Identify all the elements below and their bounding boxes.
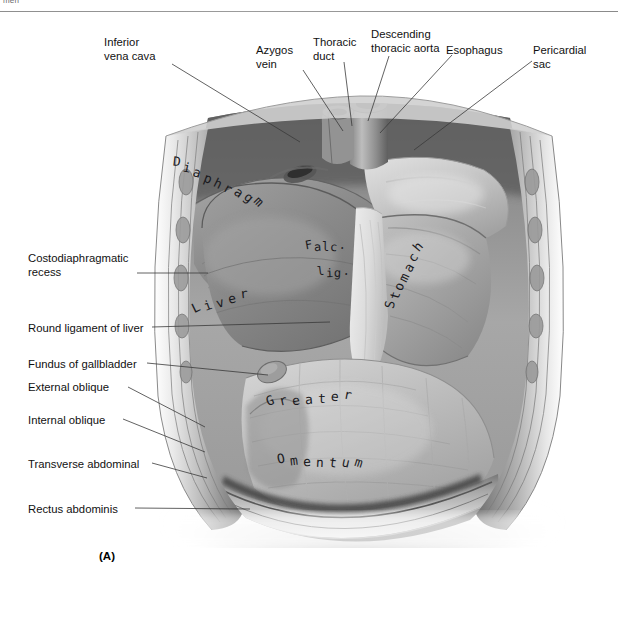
- art-label-glyph: .: [342, 264, 351, 279]
- figure-part-label: (A): [99, 550, 115, 562]
- header-rule: [0, 11, 618, 12]
- art-label-glyph: e: [303, 454, 311, 469]
- callout-external-oblique: External oblique: [28, 381, 109, 395]
- callout-rectus-abdominis: Rectus abdominis: [28, 503, 118, 517]
- art-label-glyph: n: [316, 455, 325, 470]
- page-canvas: men: [0, 0, 618, 618]
- callout-round-ligament-of-liver: Round ligament of liver: [28, 322, 144, 336]
- art-label-glyph: e: [330, 389, 339, 405]
- callout-descending-thoracic-aorta: Descending thoracic aorta: [371, 28, 439, 55]
- art-label-glyph: i: [325, 266, 333, 280]
- art-label-glyph: a: [304, 392, 313, 408]
- callout-internal-oblique: Internal oblique: [28, 414, 105, 428]
- callout-transverse-abdominal: Transverse abdominal: [28, 458, 139, 472]
- art-label-glyph: l: [322, 240, 329, 254]
- art-label-glyph: a: [313, 239, 321, 254]
- art-label-glyph: m: [289, 452, 299, 468]
- callout-pericardial-sac: Pericardial sac: [533, 44, 586, 71]
- callout-thoracic-duct: Thoracic duct: [313, 36, 356, 63]
- art-label-glyph: t: [318, 391, 326, 406]
- callout-esophagus: Esophagus: [446, 44, 503, 58]
- callout-fundus-of-gallbladder: Fundus of gallbladder: [28, 358, 137, 372]
- art-label-glyph: r: [239, 286, 248, 302]
- running-head: men: [3, 0, 19, 5]
- anatomical-illustration: [150, 78, 570, 548]
- callout-azygos-vein: Azygos vein: [256, 44, 293, 71]
- art-label-glyph: g: [334, 266, 342, 280]
- callout-inferior-vena-cava: Inferior vena cava: [104, 36, 156, 63]
- art-label-glyph: D: [172, 153, 181, 169]
- callout-costodiaphragmatic-recess: Costodiaphragmatic recess: [28, 252, 128, 279]
